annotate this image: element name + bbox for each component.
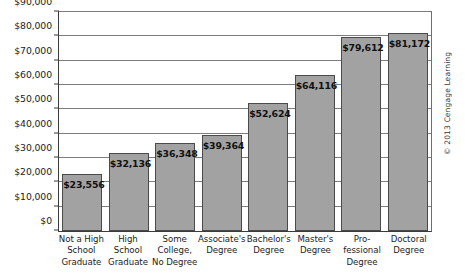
bar[interactable]: $81,172 <box>388 33 428 231</box>
bar-slot: $79,612 <box>338 12 385 231</box>
bar-value-label: $32,136 <box>110 158 148 169</box>
x-axis-category-label: Pro-fessionalDegree <box>339 234 386 268</box>
bar[interactable]: $23,556 <box>62 174 102 231</box>
x-axis-category-label: Not a HighSchoolGraduate <box>58 234 105 268</box>
bar-value-label: $52,624 <box>249 108 287 119</box>
y-axis-tick-label: $70,000 <box>14 44 52 55</box>
x-axis-label-line: Degree <box>245 245 292 256</box>
y-axis-tick-label: $40,000 <box>14 117 52 128</box>
x-axis-label-line: No Degree <box>151 257 198 268</box>
bar-slot: $23,556 <box>59 12 106 231</box>
y-axis-tick-label: $80,000 <box>14 20 52 31</box>
y-axis-tick-label: $90,000 <box>14 0 52 7</box>
x-axis-label-line: College, <box>151 245 198 256</box>
bar-chart-figure: $0$10,000$20,000$30,000$40,000$50,000$60… <box>0 0 465 279</box>
bar-value-label: $39,364 <box>203 140 241 151</box>
x-axis-label-line: fessional <box>339 245 386 256</box>
bar-value-label: $64,116 <box>296 80 334 91</box>
bar-slot: $81,172 <box>385 12 432 231</box>
x-axis-category-label: Master'sDegree <box>292 234 339 268</box>
x-axis-label-line: Associate's <box>198 234 245 245</box>
x-axis-label-line: Degree <box>198 245 245 256</box>
y-axis-tick-label: $30,000 <box>14 142 52 153</box>
y-axis-tick-label: $0 <box>40 215 52 226</box>
x-axis-category-label: SomeCollege,No Degree <box>151 234 198 268</box>
y-axis-tick-label: $20,000 <box>14 166 52 177</box>
copyright-credit: © 2013 Cengage Learning <box>443 52 452 155</box>
bar-value-label: $23,556 <box>63 179 101 190</box>
bar[interactable]: $79,612 <box>341 37 381 231</box>
x-axis-label-line: Doctoral <box>385 234 432 245</box>
bar-value-label: $79,612 <box>342 42 380 53</box>
x-axis-category-label: Associate'sDegree <box>198 234 245 268</box>
y-axis-tick-label: $10,000 <box>14 190 52 201</box>
x-axis-category-label: HighSchoolGraduate <box>105 234 152 268</box>
bar-slot: $52,624 <box>245 12 292 231</box>
x-axis-label-line: High <box>105 234 152 245</box>
x-axis-label-line: Graduate <box>58 257 105 268</box>
x-axis-label-line: Degree <box>292 245 339 256</box>
bar[interactable]: $36,348 <box>155 143 195 231</box>
bar[interactable]: $52,624 <box>248 103 288 231</box>
x-axis-label-line: Graduate <box>105 257 152 268</box>
bar-slot: $64,116 <box>292 12 339 231</box>
bar[interactable]: $39,364 <box>202 135 242 231</box>
x-axis-label-line: Some <box>151 234 198 245</box>
bar-slot: $39,364 <box>199 12 246 231</box>
y-axis-tick-label: $60,000 <box>14 69 52 80</box>
x-axis-label-line: School <box>105 245 152 256</box>
x-axis-category-label: Bachelor'sDegree <box>245 234 292 268</box>
bar[interactable]: $64,116 <box>295 75 335 231</box>
x-axis-label-line: Degree <box>385 245 432 256</box>
x-axis-category-labels: Not a HighSchoolGraduateHighSchoolGradua… <box>58 234 432 268</box>
bars-group: $23,556$32,136$36,348$39,364$52,624$64,1… <box>59 12 431 231</box>
x-axis-label-line: School <box>58 245 105 256</box>
x-axis-category-label: DoctoralDegree <box>385 234 432 268</box>
x-axis-label-line: Not a High <box>58 234 105 245</box>
bar[interactable]: $32,136 <box>109 153 149 231</box>
x-axis-label-line: Degree <box>339 257 386 268</box>
bar-value-label: $36,348 <box>156 148 194 159</box>
bar-slot: $36,348 <box>152 12 199 231</box>
bar-value-label: $81,172 <box>389 38 427 49</box>
x-axis-label-line: Bachelor's <box>245 234 292 245</box>
x-axis-label-line: Master's <box>292 234 339 245</box>
plot-area: $0$10,000$20,000$30,000$40,000$50,000$60… <box>58 11 432 232</box>
bar-slot: $32,136 <box>106 12 153 231</box>
x-axis-label-line: Pro- <box>339 234 386 245</box>
y-axis-tick-label: $50,000 <box>14 93 52 104</box>
